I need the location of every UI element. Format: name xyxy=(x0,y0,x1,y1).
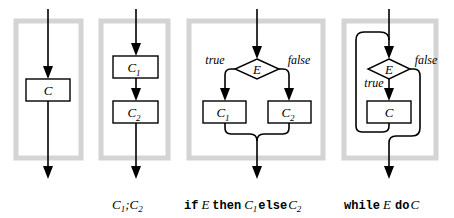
arrowhead-icon xyxy=(384,46,394,59)
flowchart-diagram: C C1 C2 C1;C2 E true false C1 C2 xyxy=(0,0,454,218)
condition-label: E xyxy=(384,62,393,77)
caption-sequence: C1;C2 xyxy=(112,197,143,214)
panel-while-loop: E false true C whileEdoC xyxy=(344,9,438,213)
panel-sequence: C1 C2 C1;C2 xyxy=(101,9,168,214)
arrowhead-icon xyxy=(131,43,141,56)
arrowhead-icon xyxy=(384,166,394,179)
arrowhead-icon xyxy=(252,46,262,59)
caption-conditional: ifEthenC1elseC2 xyxy=(184,197,302,214)
command-label: C xyxy=(385,105,394,120)
false-branch-label: false xyxy=(415,53,438,67)
panel-single-command: C xyxy=(16,9,81,179)
false-branch-line xyxy=(279,69,289,90)
true-branch-label: true xyxy=(205,53,225,67)
arrowhead-icon xyxy=(43,166,53,179)
command-label: C xyxy=(44,83,53,98)
arrowhead-icon xyxy=(384,88,394,101)
caption-while: whileEdoC xyxy=(344,197,419,213)
arrowhead-icon xyxy=(220,88,230,101)
arrowhead-icon xyxy=(252,166,262,179)
arrowhead-icon xyxy=(284,88,294,101)
merge-line-right xyxy=(257,123,289,141)
false-branch-label: false xyxy=(288,53,311,67)
merge-line-left xyxy=(225,123,257,168)
arrowhead-icon xyxy=(43,66,53,79)
arrowhead-icon xyxy=(131,166,141,179)
true-branch-line xyxy=(225,69,235,90)
panel-conditional: E true false C1 C2 ifEthenC1elseC2 xyxy=(184,9,323,214)
true-branch-label: true xyxy=(364,76,384,90)
condition-label: E xyxy=(252,62,261,77)
arrowhead-icon xyxy=(131,88,141,101)
